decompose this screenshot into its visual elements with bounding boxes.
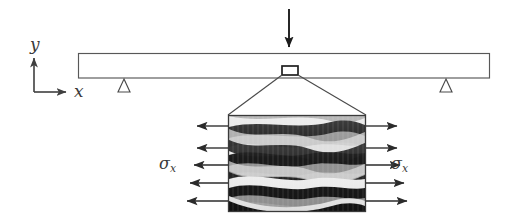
support-triangle-left <box>118 79 130 92</box>
coordinate-axes <box>34 58 66 92</box>
stress-label-left: σx <box>159 156 176 175</box>
pin-support-left <box>118 79 130 92</box>
magnifier-line-left <box>228 75 282 115</box>
figure-canvas <box>0 0 515 222</box>
element-marker-rect <box>282 66 298 75</box>
sigma-subscript-left: x <box>170 162 176 175</box>
beam-element-marker <box>282 66 298 75</box>
sigma-glyph-left: σ <box>159 154 170 173</box>
magnification-lines <box>228 75 366 115</box>
laminate-element-block <box>229 116 366 214</box>
axis-label-y: y <box>30 36 40 53</box>
magnifier-line-right <box>298 75 366 115</box>
pin-support-right <box>440 79 452 92</box>
stress-arrows-left <box>187 126 228 201</box>
laminate-plies <box>229 116 365 213</box>
stress-label-right: σx <box>391 156 408 175</box>
figure-root: y x σx σx <box>0 0 515 222</box>
sigma-subscript-right: x <box>402 162 408 175</box>
support-triangle-right <box>440 79 452 92</box>
sigma-glyph-right: σ <box>391 154 402 173</box>
axis-label-x: x <box>74 83 84 100</box>
